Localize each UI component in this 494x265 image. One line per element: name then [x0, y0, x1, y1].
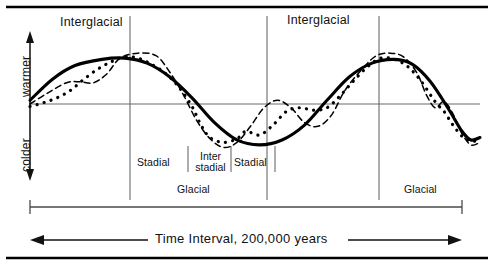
stage-label-interstadial: Inter stadial — [192, 151, 229, 172]
y-axis-label-colder: colder — [20, 138, 33, 172]
band-label-interglacial-2: Interglacial — [287, 14, 350, 27]
time-axis-label: Time Interval, 200,000 years — [155, 232, 328, 246]
band-label-interglacial-1: Interglacial — [60, 16, 123, 29]
time-axis-arrow-left — [30, 235, 44, 245]
interval-bar — [30, 200, 462, 214]
y-axis-label-warmer: warmer — [20, 56, 33, 97]
climate-cycle-chart — [0, 0, 494, 265]
band-label-glacial-1: Glacial — [177, 184, 210, 195]
climate-cycle-figure: warmer colder Interglacial Interglacial … — [0, 0, 494, 265]
band-label-glacial-2: Glacial — [404, 184, 437, 195]
time-axis-arrow-right — [448, 235, 462, 245]
stage-label-stadial-1: Stadial — [137, 157, 170, 168]
stage-label-interstadial-line1: Inter — [192, 151, 229, 162]
stage-label-interstadial-line2: stadial — [192, 162, 229, 173]
stage-label-stadial-2: Stadial — [234, 157, 267, 168]
series-intermediate-oscillation-curve — [30, 53, 480, 148]
y-axis-arrow-up — [26, 31, 34, 43]
series-short-term-fluctuation-curve — [30, 57, 480, 143]
